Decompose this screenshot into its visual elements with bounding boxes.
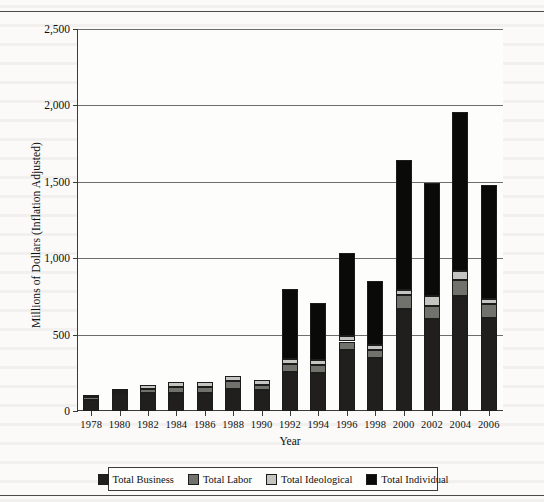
bar-segment-total-business[interactable] [254,390,270,411]
bar-segment-total-ideological[interactable] [339,336,355,341]
bar-segment-total-ideological[interactable] [310,360,326,365]
bar-segment-total-business[interactable] [310,373,326,411]
bar-segment-total-labor[interactable] [452,280,468,296]
bar-segment-total-individual[interactable] [396,160,412,290]
bar-segment-total-business[interactable] [339,350,355,411]
x-tick-mark [233,411,234,416]
bar-segment-total-individual[interactable] [452,112,468,271]
bar-segment-total-labor[interactable] [424,306,440,320]
bar-segment-total-ideological[interactable] [367,345,383,350]
bar-segment-total-individual[interactable] [310,303,326,360]
y-tick-mark [73,411,78,412]
legend-item-total-labor[interactable]: Total Labor [188,474,252,485]
legend-swatch-labor-icon [188,474,199,485]
bar-segment-total-ideological[interactable] [481,299,497,304]
bar-segment-total-labor[interactable] [367,350,383,358]
bar-segment-total-labor[interactable] [225,381,241,389]
x-tick-mark [148,411,149,416]
bar-segment-total-labor[interactable] [168,387,184,393]
legend-item-total-ideological[interactable]: Total Ideological [266,474,352,485]
bar-segment-total-individual[interactable] [339,253,355,336]
bar-segment-total-labor[interactable] [310,365,326,373]
bar-segment-total-individual[interactable] [282,289,298,359]
x-tick-label-2004: 2004 [449,419,471,430]
legend-item-total-business[interactable]: Total Business [98,474,174,485]
bar-series-container [77,29,503,411]
bar-segment-total-individual[interactable] [367,281,383,345]
bar-segment-total-business[interactable] [112,393,128,411]
bar-segment-total-ideological[interactable] [225,376,241,381]
x-tick-mark [262,411,263,416]
x-tick-label-1996: 1996 [336,419,358,430]
legend-label: Total Labor [203,474,252,485]
bar-segment-total-labor[interactable] [339,342,355,350]
bar-segment-total-business[interactable] [282,372,298,411]
bar-segment-total-ideological[interactable] [168,382,184,387]
bar-segment-total-ideological[interactable] [254,380,270,385]
x-tick-label-1988: 1988 [222,419,244,430]
bar-segment-total-individual[interactable] [424,183,440,296]
bar-segment-total-ideological[interactable] [452,271,468,279]
y-tick-label: 1,500 [44,176,70,188]
page-rule-top [0,11,544,12]
x-tick-mark [205,411,206,416]
bar-segment-total-ideological[interactable] [140,385,156,389]
y-tick-label: 0 [64,405,70,417]
x-tick-label-1990: 1990 [251,419,273,430]
bar-segment-total-labor[interactable] [112,391,128,393]
bar-segment-total-business[interactable] [197,393,213,411]
bar-segment-total-business[interactable] [225,389,241,411]
x-tick-label-1994: 1994 [307,419,329,430]
x-tick-mark [176,411,177,416]
y-axis-title: Millions of Dollars (Inflation Adjusted) [30,125,42,345]
legend-label: Total Individual [381,474,448,485]
x-tick-label-1992: 1992 [279,419,301,430]
bar-segment-total-ideological[interactable] [112,389,128,391]
bar-segment-total-business[interactable] [396,309,412,411]
bar-segment-total-labor[interactable] [481,304,497,318]
bar-segment-total-business[interactable] [168,393,184,411]
bar-segment-total-business[interactable] [83,400,99,411]
x-tick-label-2000: 2000 [393,419,415,430]
bar-segment-total-business[interactable] [481,318,497,411]
bar-segment-total-labor[interactable] [140,389,156,393]
legend-item-total-individual[interactable]: Total Individual [366,474,448,485]
bar-segment-total-labor[interactable] [254,385,270,390]
bar-segment-total-labor[interactable] [197,387,213,393]
x-tick-label-2002: 2002 [421,419,443,430]
bar-segment-total-ideological[interactable] [197,382,213,387]
bar-segment-total-business[interactable] [452,296,468,411]
x-tick-label-1998: 1998 [364,419,386,430]
bar-segment-total-business[interactable] [367,358,383,411]
scanned-page: Millions of Dollars (Inflation Adjusted)… [0,0,544,502]
legend-label: Total Ideological [281,474,352,485]
bar-segment-total-labor[interactable] [282,364,298,372]
page-rule-bottom [0,495,544,496]
bar-segment-total-labor[interactable] [396,295,412,310]
bar-segment-total-ideological[interactable] [396,290,412,295]
y-tick-label: 1,000 [44,252,70,264]
y-tick-label: 2,000 [44,99,70,111]
x-tick-mark [432,411,433,416]
x-tick-label-1980: 1980 [109,419,131,430]
x-tick-mark [489,411,490,416]
x-tick-mark [120,411,121,416]
bar-segment-total-ideological[interactable] [282,359,298,364]
legend-label: Total Business [113,474,174,485]
x-tick-label-1986: 1986 [194,419,216,430]
y-tick-label: 500 [53,329,70,341]
x-tick-label-1984: 1984 [165,419,187,430]
x-tick-mark [91,411,92,416]
bar-segment-total-business[interactable] [424,319,440,411]
bar-segment-total-ideological[interactable] [83,395,99,397]
x-tick-mark [318,411,319,416]
bar-segment-total-business[interactable] [140,393,156,411]
x-tick-mark [290,411,291,416]
bar-segment-total-individual[interactable] [481,185,497,300]
x-axis-title: Year [77,435,503,447]
bar-segment-total-ideological[interactable] [424,296,440,306]
x-tick-label-1982: 1982 [137,419,159,430]
x-tick-mark [375,411,376,416]
bar-segment-total-labor[interactable] [83,397,99,400]
bar-chart-figure: Millions of Dollars (Inflation Adjusted)… [0,14,544,492]
